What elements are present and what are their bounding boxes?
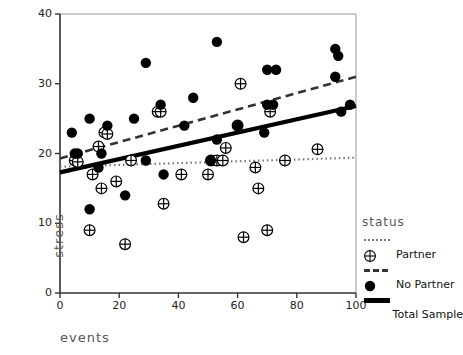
x-tick-label: 0 — [40, 299, 80, 312]
filled-circle-icon — [362, 279, 392, 291]
data-point-partner — [96, 183, 107, 194]
data-point-partner — [238, 232, 249, 243]
data-points — [67, 37, 356, 250]
legend-row-total[interactable]: Total Sample — [362, 307, 463, 322]
x-tick-label: 40 — [158, 299, 198, 312]
x-axis-label: events — [60, 330, 110, 345]
y-tick-label: 20 — [22, 147, 52, 160]
y-tick-label: 30 — [22, 77, 52, 90]
data-point-no-partner — [206, 155, 216, 165]
data-point-no-partner — [271, 65, 281, 75]
data-point-no-partner — [262, 65, 272, 75]
data-point-no-partner — [188, 93, 198, 103]
data-point-partner — [250, 162, 261, 173]
legend-row-total-line — [362, 292, 463, 307]
data-point-no-partner — [336, 106, 346, 116]
scatter-plot-figure: 020406080100010203040 stress events stat… — [0, 0, 463, 355]
legend-row-no-partner-line — [362, 262, 463, 277]
dashed-line-icon — [362, 264, 392, 276]
data-point-partner — [84, 225, 95, 236]
data-point-no-partner — [84, 113, 94, 123]
data-point-partner — [262, 225, 273, 236]
data-point-no-partner — [73, 148, 83, 158]
data-point-no-partner — [212, 37, 222, 47]
data-point-no-partner — [67, 127, 77, 137]
data-point-no-partner — [96, 148, 106, 158]
data-point-partner — [120, 239, 131, 250]
data-point-no-partner — [345, 99, 355, 109]
y-tick-label: 10 — [22, 216, 52, 229]
data-point-partner — [312, 144, 323, 155]
data-point-partner — [220, 143, 231, 154]
x-tick-label: 80 — [277, 299, 317, 312]
circle-plus-icon — [362, 249, 392, 261]
data-point-no-partner — [84, 204, 94, 214]
legend-label-no-partner: No Partner — [396, 278, 454, 291]
data-point-partner — [280, 155, 291, 166]
legend-row-partner[interactable]: Partner — [362, 247, 463, 262]
data-point-no-partner — [141, 155, 151, 165]
data-point-no-partner — [333, 51, 343, 61]
data-point-no-partner — [259, 127, 269, 137]
legend-title: status — [362, 215, 463, 229]
data-point-no-partner — [120, 190, 130, 200]
y-tick-label: 0 — [22, 286, 52, 299]
data-point-no-partner — [268, 99, 278, 109]
data-point-partner — [253, 183, 264, 194]
x-tick-label: 20 — [99, 299, 139, 312]
data-point-no-partner — [129, 113, 139, 123]
x-tick-label: 60 — [218, 299, 258, 312]
data-point-no-partner — [179, 120, 189, 130]
data-point-partner — [235, 78, 246, 89]
data-point-partner — [126, 155, 137, 166]
data-point-no-partner — [155, 99, 165, 109]
legend: status Partner — [362, 215, 463, 322]
data-point-partner — [176, 169, 187, 180]
y-tick-label: 40 — [22, 7, 52, 20]
data-point-no-partner — [232, 120, 242, 130]
data-point-no-partner — [212, 134, 222, 144]
legend-row-partner-line — [362, 232, 463, 247]
data-point-partner — [217, 155, 228, 166]
dotted-line-icon — [362, 234, 392, 246]
data-point-no-partner — [93, 162, 103, 172]
data-point-no-partner — [141, 58, 151, 68]
legend-label-partner: Partner — [396, 248, 436, 261]
data-point-partner — [203, 169, 214, 180]
y-axis-label: stress — [51, 181, 66, 291]
data-point-partner — [158, 198, 169, 209]
legend-label-total: Total Sample — [393, 308, 463, 321]
data-point-partner — [111, 176, 122, 187]
solid-line-icon — [362, 294, 392, 306]
data-point-no-partner — [102, 120, 112, 130]
data-point-no-partner — [158, 169, 168, 179]
data-point-no-partner — [330, 72, 340, 82]
legend-row-no-partner[interactable]: No Partner — [362, 277, 463, 292]
